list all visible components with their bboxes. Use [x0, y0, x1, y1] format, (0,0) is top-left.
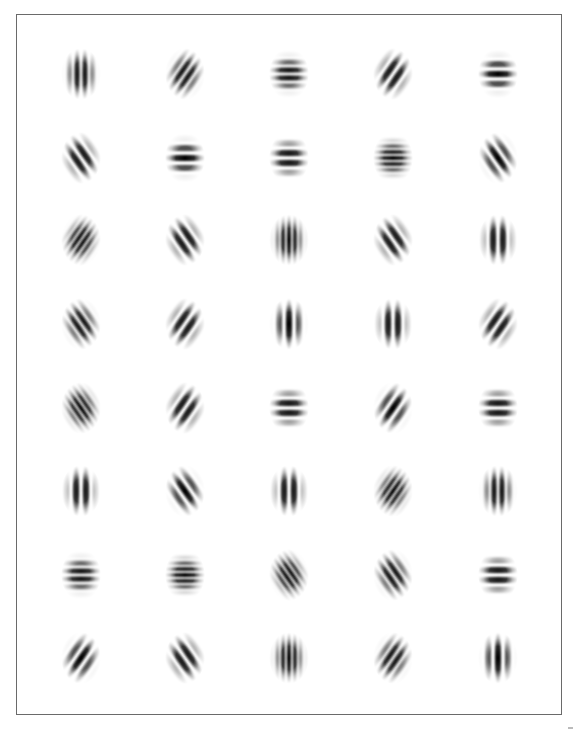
gabor-patch — [363, 628, 423, 688]
gabor-patch — [51, 378, 111, 438]
gabor-patch — [468, 44, 528, 104]
gabor-patch — [259, 545, 319, 605]
gabor-patch — [51, 545, 111, 605]
gabor-patch — [468, 210, 528, 270]
gabor-patch — [51, 128, 111, 188]
gabor-patch — [51, 461, 111, 521]
gabor-patch — [155, 44, 215, 104]
gabor-patch — [363, 128, 423, 188]
gabor-patch — [51, 628, 111, 688]
gabor-patch — [259, 210, 319, 270]
gabor-patch — [259, 378, 319, 438]
gabor-patch — [259, 44, 319, 104]
gabor-patch — [363, 545, 423, 605]
gabor-patch — [51, 294, 111, 354]
gabor-patch — [155, 461, 215, 521]
gabor-patch — [468, 628, 528, 688]
gabor-patch — [468, 294, 528, 354]
gabor-patch — [363, 210, 423, 270]
figure-frame — [16, 14, 562, 715]
gabor-patch — [155, 378, 215, 438]
gabor-patch — [468, 461, 528, 521]
gabor-patch — [155, 128, 215, 188]
gabor-patch — [363, 44, 423, 104]
gabor-patch — [259, 128, 319, 188]
gabor-patch — [468, 545, 528, 605]
gabor-patch — [259, 461, 319, 521]
corner-mark — [568, 727, 573, 729]
gabor-patch — [155, 628, 215, 688]
gabor-patch — [259, 628, 319, 688]
gabor-patch — [363, 461, 423, 521]
gabor-patch — [363, 378, 423, 438]
gabor-patch — [259, 294, 319, 354]
gabor-patch — [51, 210, 111, 270]
gabor-patch — [363, 294, 423, 354]
gabor-patch — [468, 378, 528, 438]
gabor-patch — [155, 545, 215, 605]
gabor-patch — [155, 294, 215, 354]
gabor-patch — [51, 44, 111, 104]
gabor-patch — [468, 128, 528, 188]
gabor-patch — [155, 210, 215, 270]
